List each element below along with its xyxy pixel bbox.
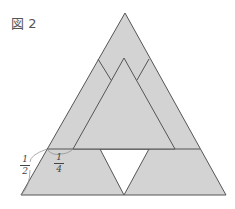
fraction-quarter-numerator: 1 xyxy=(54,153,64,162)
fraction-half: 1 2 xyxy=(20,155,30,176)
fraction-quarter: 1 4 xyxy=(54,153,64,174)
figure-title: 図 2 xyxy=(11,13,36,32)
fraction-half-numerator: 1 xyxy=(20,155,30,164)
fraction-quarter-denominator: 4 xyxy=(54,165,64,174)
fraction-half-denominator: 2 xyxy=(20,167,30,176)
figure-container: 図 2 1 2 1 4 xyxy=(0,0,235,209)
